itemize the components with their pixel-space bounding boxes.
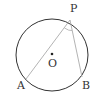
label-b: B: [82, 79, 90, 92]
label-p: P: [70, 2, 78, 15]
angle-arc-p: [65, 28, 73, 31]
chord-pa: [26, 20, 70, 79]
center-dot-o: [51, 53, 54, 56]
label-a: A: [16, 79, 26, 92]
circle-diagram: P O A B: [0, 0, 98, 96]
label-o: O: [48, 57, 57, 70]
